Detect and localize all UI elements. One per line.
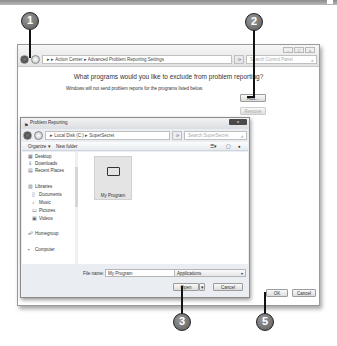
dialog-search-placeholder: Search SuperSecret xyxy=(188,133,229,138)
cancel-button[interactable]: Cancel xyxy=(292,289,316,297)
nav-label: Desktop xyxy=(35,154,52,159)
search-input[interactable]: Search Control Panel⌕ xyxy=(246,55,317,64)
videos-icon: ▣ xyxy=(32,216,37,221)
dialog-cancel-button[interactable]: Cancel xyxy=(213,283,243,291)
nav-item-recent-places[interactable]: ▤Recent Places xyxy=(28,168,64,173)
nav-item-videos[interactable]: ▣Videos xyxy=(32,216,53,221)
dialog-title: Problem Reporting xyxy=(30,120,68,125)
nav-label: Pictures xyxy=(39,208,55,213)
nav-item-downloads[interactable]: ⇓Downloads xyxy=(28,161,57,166)
back-button[interactable] xyxy=(20,55,29,64)
nav-label: Documents xyxy=(39,192,62,197)
view-options-icon[interactable]: ☰▾ xyxy=(210,142,217,151)
folder-icon xyxy=(107,167,120,176)
file-name-value: My Program xyxy=(108,271,133,276)
search-icon: ⌕ xyxy=(311,56,314,64)
libraries-icon: ▥ xyxy=(28,184,33,189)
open-button[interactable]: Open xyxy=(173,283,199,291)
file-item-label: My Program xyxy=(95,193,131,198)
problem-reporting-dialog: ⚑ Problem Reporting x ▸ Local Disk (C:) … xyxy=(20,117,250,298)
file-name-row: File name: My Program▾ Applications▾ xyxy=(21,269,249,279)
callout-line-3 xyxy=(181,286,183,316)
recent-places-icon: ▤ xyxy=(28,168,33,173)
callout-2: 2 xyxy=(245,13,263,31)
nav-label: Computer xyxy=(35,247,55,252)
preview-pane-icon[interactable]: ▢ xyxy=(226,142,231,151)
file-name-input[interactable]: My Program▾ xyxy=(105,269,180,277)
nav-item-pictures[interactable]: ▭Pictures xyxy=(32,208,55,213)
dialog-toolbar: Organize ▾ New folder ☰▾ ▢ ● xyxy=(22,142,248,151)
callout-line-2-horizontal xyxy=(247,96,255,98)
dialog-refresh-icon[interactable]: ⟳ xyxy=(172,131,182,140)
desktop-icon: ▦ xyxy=(28,154,33,159)
chevron-down-icon: ▾ xyxy=(241,270,243,277)
dialog-search-input[interactable]: Search SuperSecret⌕ xyxy=(184,131,247,140)
nav-item-documents[interactable]: ▯Documents xyxy=(32,192,62,197)
file-name-label: File name: xyxy=(83,271,104,276)
callout-line-1 xyxy=(29,30,31,58)
dialog-forward-button[interactable] xyxy=(34,131,43,140)
window-chrome: – □ x ▸ ▸ Action Center ▸ Advanced Probl… xyxy=(18,45,319,67)
nav-label: Recent Places xyxy=(35,168,64,173)
address-bar[interactable]: ▸ ▸ Action Center ▸ Advanced Problem Rep… xyxy=(42,55,232,64)
dialog-back-button[interactable] xyxy=(23,131,32,140)
nav-label: Videos xyxy=(39,216,53,221)
address-row: ▸ ▸ Action Center ▸ Advanced Problem Rep… xyxy=(20,54,317,64)
dialog-content: ▦Desktop ⇓Downloads ▤Recent Places ▥Libr… xyxy=(22,152,248,264)
nav-item-music[interactable]: ♪Music xyxy=(32,200,51,205)
page-top-bar xyxy=(0,0,337,5)
page-heading: What programs would you like to exclude … xyxy=(18,73,319,80)
file-type-select[interactable]: Applications▾ xyxy=(174,269,246,277)
nav-item-computer[interactable]: ▪Computer xyxy=(28,247,55,252)
minimize-button[interactable]: – xyxy=(283,47,293,53)
page-subheading: Windows will not send problem reports fo… xyxy=(66,86,203,91)
forward-button[interactable] xyxy=(31,55,40,64)
file-item-my-program[interactable]: My Program xyxy=(94,156,132,200)
dialog-close-button[interactable]: x xyxy=(229,119,247,125)
downloads-icon: ⇓ xyxy=(28,161,33,166)
dialog-title-bar: ⚑ Problem Reporting x xyxy=(21,118,249,129)
music-icon: ♪ xyxy=(32,200,37,205)
nav-label: Libraries xyxy=(35,184,52,189)
close-button[interactable]: x xyxy=(305,47,315,53)
search-icon: ⌕ xyxy=(241,132,244,140)
nav-scrollbar[interactable] xyxy=(75,152,78,264)
file-type-value: Applications xyxy=(177,271,201,276)
window-buttons: – □ x xyxy=(283,47,315,53)
nav-label: Homegroup xyxy=(35,231,59,236)
nav-item-homegroup[interactable]: ☍Homegroup xyxy=(28,231,59,236)
organize-button[interactable]: Organize ▾ xyxy=(28,142,51,151)
remove-button[interactable]: Remove xyxy=(240,107,266,115)
refresh-icon[interactable]: ⟳ xyxy=(234,55,244,64)
ok-button[interactable]: OK xyxy=(266,289,288,297)
dialog-address-bar[interactable]: ▸ Local Disk (C:) ▸ SuperSecret xyxy=(45,131,170,140)
homegroup-icon: ☍ xyxy=(28,231,33,236)
nav-item-desktop[interactable]: ▦Desktop xyxy=(28,154,52,159)
nav-item-libraries[interactable]: ▥Libraries xyxy=(28,184,52,189)
flag-icon: ⚑ xyxy=(24,120,28,130)
help-icon[interactable]: ● xyxy=(238,142,241,151)
callout-5: 5 xyxy=(256,313,274,331)
open-dropdown-button[interactable]: ▾ xyxy=(199,283,205,291)
maximize-button[interactable]: □ xyxy=(294,47,304,53)
dialog-address-row: ▸ Local Disk (C:) ▸ SuperSecret ⟳ Search… xyxy=(23,130,247,140)
computer-icon: ▪ xyxy=(28,247,33,252)
nav-label: Music xyxy=(39,200,51,205)
pictures-icon: ▭ xyxy=(32,208,37,213)
documents-icon: ▯ xyxy=(32,192,37,197)
callout-line-2 xyxy=(253,30,255,97)
callout-1: 1 xyxy=(21,12,39,30)
callout-3: 3 xyxy=(173,313,191,331)
search-placeholder: Search Control Panel xyxy=(250,57,293,62)
nav-label: Downloads xyxy=(35,161,57,166)
navigation-pane: ▦Desktop ⇓Downloads ▤Recent Places ▥Libr… xyxy=(22,152,77,264)
new-folder-button[interactable]: New folder xyxy=(56,142,78,151)
